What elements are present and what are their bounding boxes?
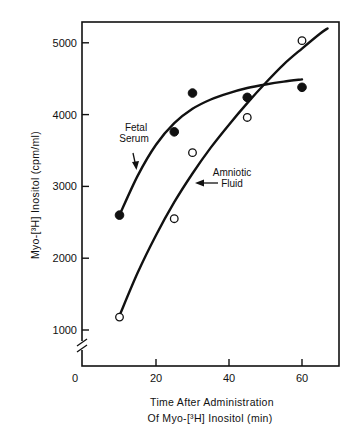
x-axis-label-line-2: Of Myo-[³H] Inositol (min): [147, 412, 272, 424]
x-tick-label: 60: [296, 372, 308, 384]
amniotic-fluid-point: [189, 149, 197, 157]
fetal-serum-point: [115, 211, 124, 220]
y-tick-label: 4000: [53, 109, 77, 121]
y-tick-label: 2000: [53, 252, 77, 264]
y-axis-label: Myo-[³H] Inositol (cpm/ml): [29, 131, 41, 259]
annotations: FetalSerumAmnioticFluid: [119, 122, 251, 189]
fetal-serum-label-line-2: Serum: [119, 133, 148, 144]
amniotic-fluid-point: [170, 215, 178, 223]
amniotic-fluid-label-line-1: Amniotic: [213, 167, 251, 178]
arrow-head: [195, 180, 204, 187]
y-tick-label: 1000: [53, 324, 77, 336]
axes: 100020003000400050002040600: [53, 22, 339, 384]
fetal-serum-label-line-1: Fetal: [125, 122, 147, 133]
chart: 100020003000400050002040600 FetalSerumAm…: [0, 0, 355, 438]
amniotic-fluid-point: [243, 114, 251, 122]
data-points: [115, 37, 306, 321]
arrow-left-icon: [195, 180, 218, 187]
y-tick-label: 3000: [53, 180, 77, 192]
fetal-serum-point: [298, 83, 307, 92]
x-tick-label: 20: [150, 372, 162, 384]
x-axis-label-line-1: Time After Administration: [150, 396, 274, 408]
x-tick-label: 40: [223, 372, 235, 384]
fetal-serum-point: [243, 93, 252, 102]
amniotic-fluid-point: [116, 313, 124, 321]
arrow-down-icon: [132, 153, 139, 170]
arrow-head: [132, 161, 139, 170]
fetal-serum-point: [170, 128, 179, 137]
y-tick-label: 5000: [53, 37, 77, 49]
x-origin-label: 0: [72, 372, 78, 384]
amniotic-fluid-point: [298, 37, 306, 45]
amniotic-fluid-label-line-2: Fluid: [221, 178, 243, 189]
fetal-serum-point: [188, 89, 197, 98]
